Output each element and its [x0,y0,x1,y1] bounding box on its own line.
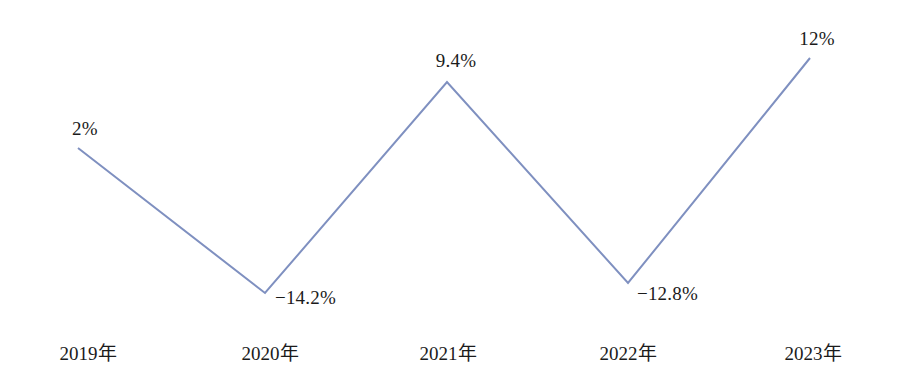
line-chart-figure: 2% −14.2% 9.4% −12.8% 12% 2019年 2020年 20… [0,0,904,389]
x-axis-label-2020: 2020年 [242,343,299,365]
data-label-2022: −12.8% [637,284,698,303]
x-axis-label-2021: 2021年 [420,343,477,365]
data-label-2020: −14.2% [275,288,336,307]
x-axis-label-2022: 2022年 [600,343,657,365]
x-axis-label-2023: 2023年 [785,343,842,365]
x-axis-label-2019: 2019年 [60,343,117,365]
data-label-2023: 12% [799,29,834,48]
data-label-2019: 2% [72,119,98,138]
data-label-2021: 9.4% [436,51,476,70]
